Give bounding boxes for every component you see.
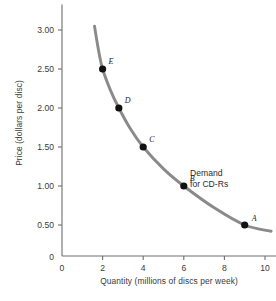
x-tick-label: 8	[213, 263, 235, 273]
y-tick-label: 2.00	[24, 103, 54, 113]
axes-group	[62, 5, 276, 256]
y-tick-label: 1.00	[24, 181, 54, 191]
y-tick-label: 0	[24, 252, 54, 262]
data-point-label-d: D	[125, 96, 131, 105]
y-tick-label: 2.50	[24, 64, 54, 74]
data-point-label-a: A	[252, 214, 257, 223]
x-tick-label: 10	[254, 263, 276, 273]
data-point-label-c: C	[149, 135, 154, 144]
y-tick-label: 1.50	[24, 142, 54, 152]
x-tick-label: 2	[92, 263, 114, 273]
data-point-label-e: E	[109, 57, 114, 66]
demand-curve-label-line: Demand	[190, 168, 228, 179]
x-tick-label: 4	[132, 263, 154, 273]
x-tick-label: 0	[51, 263, 73, 273]
demand-curve	[94, 26, 271, 231]
demand-curve-chart: Price (dollars per disc) Quantity (milli…	[0, 0, 276, 301]
x-tick-label: 6	[173, 263, 195, 273]
y-axis-title: Price (dollars per disc)	[14, 63, 24, 183]
demand-curve-label-line: for CD-Rs	[190, 179, 228, 190]
y-tick-label: 3.00	[24, 25, 54, 35]
data-point-markers	[99, 65, 248, 228]
y-tick-label: 0.50	[24, 220, 54, 230]
tick-marks-group	[58, 30, 265, 260]
x-axis-title: Quantity (millions of discs per week)	[62, 276, 276, 286]
demand-curve-label: Demandfor CD-Rs	[190, 168, 228, 190]
